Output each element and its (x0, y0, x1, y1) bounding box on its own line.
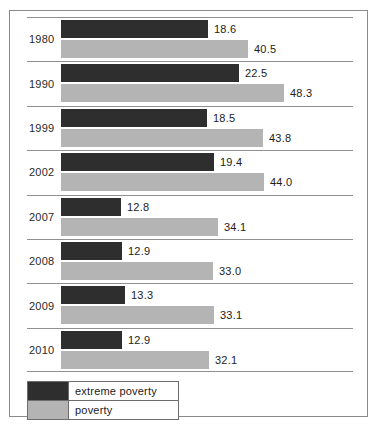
bar-rect (61, 40, 248, 58)
gridline (27, 283, 353, 284)
category-label: 1999 (29, 122, 54, 134)
plot-area: 198018.640.5199022.548.3199918.543.82002… (27, 17, 353, 373)
gridline (27, 150, 353, 151)
chart-row: 200812.933.0 (27, 239, 353, 283)
bar-poverty[interactable]: 40.5 (61, 40, 353, 58)
bar-value-label: 22.5 (245, 67, 267, 79)
gridline (27, 61, 353, 62)
bar-value-label: 18.5 (213, 112, 235, 124)
legend-label: poverty (69, 401, 112, 419)
bar-poverty[interactable]: 44.0 (61, 173, 353, 191)
chart-row: 200219.444.0 (27, 150, 353, 194)
bar-rect (61, 173, 264, 191)
bar-value-label: 18.6 (214, 23, 236, 35)
bar-group: 18.543.8 (61, 109, 353, 147)
chart-frame: 198018.640.5199022.548.3199918.543.82002… (9, 10, 368, 417)
chart-row: 198018.640.5 (27, 17, 353, 61)
bar-rect (61, 351, 209, 369)
bar-extreme[interactable]: 12.8 (61, 198, 353, 216)
bar-extreme[interactable]: 12.9 (61, 331, 353, 349)
bar-value-label: 48.3 (290, 87, 312, 99)
bar-poverty[interactable]: 34.1 (61, 218, 353, 236)
bar-rect (61, 84, 284, 102)
bar-group: 12.933.0 (61, 242, 353, 280)
bar-extreme[interactable]: 18.6 (61, 20, 353, 38)
bar-value-label: 44.0 (270, 176, 292, 188)
category-label: 2008 (29, 255, 54, 267)
bar-rect (61, 286, 125, 304)
gridline (27, 195, 353, 196)
bar-value-label: 43.8 (269, 132, 291, 144)
legend-item[interactable]: poverty (28, 400, 178, 419)
gridline (27, 17, 353, 18)
bar-rect (61, 218, 218, 236)
category-label: 1980 (29, 33, 54, 45)
bar-rect (61, 306, 214, 324)
legend-swatch (28, 401, 69, 419)
bar-rect (61, 262, 213, 280)
bar-extreme[interactable]: 12.9 (61, 242, 353, 260)
bar-value-label: 33.0 (219, 265, 241, 277)
category-label: 2010 (29, 344, 54, 356)
bar-rect (61, 64, 239, 82)
bar-rect (61, 129, 263, 147)
bar-rect (61, 153, 214, 171)
bar-extreme[interactable]: 22.5 (61, 64, 353, 82)
bar-poverty[interactable]: 43.8 (61, 129, 353, 147)
bar-extreme[interactable]: 13.3 (61, 286, 353, 304)
legend-item[interactable]: extreme poverty (28, 382, 178, 400)
gridline (27, 328, 353, 329)
bar-rect (61, 20, 208, 38)
bar-group: 22.548.3 (61, 64, 353, 102)
bar-rect (61, 242, 122, 260)
chart-row: 201012.932.1 (27, 328, 353, 372)
bar-poverty[interactable]: 32.1 (61, 351, 353, 369)
category-label: 2009 (29, 300, 54, 312)
gridline (27, 371, 353, 372)
bar-value-label: 33.1 (220, 309, 242, 321)
bar-poverty[interactable]: 33.1 (61, 306, 353, 324)
legend-swatch (28, 382, 69, 400)
chart-row: 199022.548.3 (27, 61, 353, 105)
chart-row: 200712.834.1 (27, 195, 353, 239)
bar-value-label: 12.9 (128, 334, 150, 346)
chart-row: 199918.543.8 (27, 106, 353, 150)
bar-rect (61, 331, 122, 349)
bar-group: 12.834.1 (61, 198, 353, 236)
bar-value-label: 34.1 (224, 221, 246, 233)
category-label: 2002 (29, 166, 54, 178)
bar-value-label: 32.1 (215, 354, 237, 366)
bar-group: 19.444.0 (61, 153, 353, 191)
bar-rect (61, 198, 121, 216)
chart-legend: extreme povertypoverty (27, 381, 179, 420)
bar-group: 13.333.1 (61, 286, 353, 324)
chart-row: 200913.333.1 (27, 283, 353, 327)
bar-value-label: 19.4 (220, 156, 242, 168)
gridline (27, 106, 353, 107)
category-label: 1990 (29, 78, 54, 90)
bar-value-label: 12.8 (127, 201, 149, 213)
bar-group: 12.932.1 (61, 331, 353, 369)
bar-rect (61, 109, 207, 127)
bar-poverty[interactable]: 48.3 (61, 84, 353, 102)
bar-group: 18.640.5 (61, 20, 353, 58)
bar-value-label: 13.3 (131, 289, 153, 301)
category-label: 2007 (29, 211, 54, 223)
gridline (27, 239, 353, 240)
bar-extreme[interactable]: 19.4 (61, 153, 353, 171)
legend-label: extreme poverty (69, 382, 157, 400)
bar-value-label: 12.9 (128, 245, 150, 257)
bar-extreme[interactable]: 18.5 (61, 109, 353, 127)
bar-poverty[interactable]: 33.0 (61, 262, 353, 280)
bar-value-label: 40.5 (254, 43, 276, 55)
